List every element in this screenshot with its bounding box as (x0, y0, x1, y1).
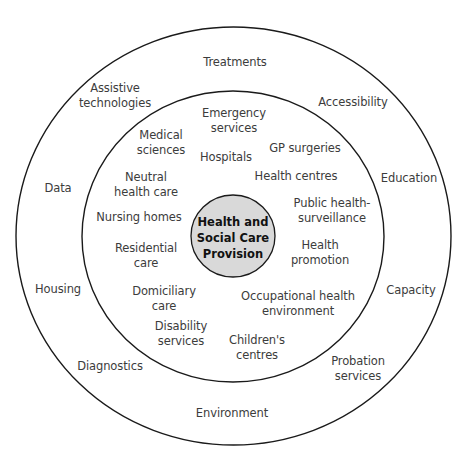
outer-label-capacity: Capacity (386, 283, 435, 298)
inner-label-domiciliary-care: Domiciliary care (132, 284, 196, 314)
inner-label-health-centres: Health centres (255, 169, 338, 184)
outer-label-education: Education (381, 171, 437, 186)
inner-label-nursing-homes: Nursing homes (96, 210, 181, 225)
inner-label-gp-surgeries: GP surgeries (269, 141, 340, 156)
inner-label-neutral-health-care: Neutral health care (114, 170, 178, 200)
inner-label-childrens-centres: Children's centres (229, 333, 285, 363)
outer-label-housing: Housing (35, 282, 81, 297)
outer-label-treatments: Treatments (203, 55, 267, 70)
inner-label-public-health-surveillance: Public health- surveillance (294, 196, 371, 226)
inner-label-occupational-health-environment: Occupational health environment (241, 289, 355, 319)
outer-label-assistive-technologies: Assistive technologies (79, 81, 151, 111)
outer-label-diagnostics: Diagnostics (77, 359, 143, 374)
inner-label-health-promotion: Health promotion (291, 238, 349, 268)
outer-label-environment: Environment (196, 406, 268, 421)
inner-label-disability-services: Disability services (155, 319, 207, 349)
center-label: Health and Social Care Provision (197, 214, 269, 262)
outer-label-accessibility: Accessibility (318, 95, 387, 110)
inner-label-residential-care: Residential care (115, 241, 177, 271)
inner-label-emergency-services: Emergency services (202, 106, 266, 136)
inner-label-medical-sciences: Medical sciences (137, 128, 185, 158)
outer-label-data: Data (44, 181, 71, 196)
inner-label-hospitals: Hospitals (200, 150, 252, 165)
outer-label-probation-services: Probation services (331, 354, 385, 384)
